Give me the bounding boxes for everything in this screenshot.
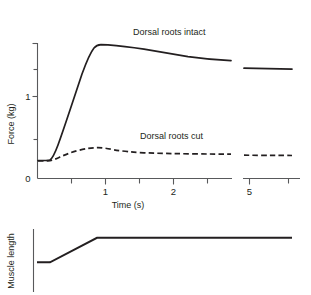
muscle-length-panel: Muscle length [6, 229, 292, 292]
trace-dorsal-roots-cut [38, 148, 231, 161]
force-y-axis-title: Force (kg) [6, 103, 16, 144]
label-dorsal-roots-cut: Dorsal roots cut [140, 131, 204, 141]
trace-dorsal-roots-intact [38, 45, 231, 161]
label-dorsal-roots-intact: Dorsal roots intact [133, 27, 206, 37]
trace-muscle-length [37, 238, 292, 262]
trace-dorsal-roots-intact-after-break [244, 68, 292, 69]
force-y-label-0: 0 [25, 173, 30, 184]
figure-root: 0 1 1 2 5 Force (kg) Time (s) Dorsal roo… [0, 0, 311, 295]
force-x-label-1: 1 [103, 186, 108, 197]
force-y-label-1: 1 [25, 91, 30, 102]
muscle-length-y-axis-title: Muscle length [6, 233, 16, 289]
force-x-label-5: 5 [247, 186, 252, 197]
force-x-label-2: 2 [171, 186, 176, 197]
force-x-axis-title: Time (s) [112, 200, 145, 210]
figure-canvas: 0 1 1 2 5 Force (kg) Time (s) Dorsal roo… [0, 0, 311, 295]
force-panel: 0 1 1 2 5 Force (kg) Time (s) Dorsal roo… [6, 27, 300, 210]
